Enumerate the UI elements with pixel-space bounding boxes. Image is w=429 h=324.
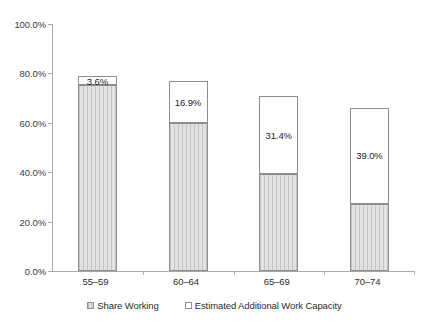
bar-value-label: 39.0%	[351, 151, 388, 161]
chart-legend: Share Working Estimated Additional Work …	[0, 300, 429, 311]
striped-gray-swatch-icon	[87, 302, 94, 309]
x-axis-label-70-74: 70–74	[330, 276, 405, 287]
y-tick-mark-60	[48, 123, 52, 124]
y-tick-label-20: 20.0%	[20, 216, 46, 227]
bar-group-70-74[interactable]: 39.0%	[350, 24, 389, 271]
legend-item-share-working[interactable]: Share Working	[87, 300, 158, 311]
x-tick-separator-3	[324, 271, 325, 275]
bar-segment-work-capacity[interactable]: 16.9%	[169, 81, 208, 123]
bar-segment-share-working[interactable]	[350, 204, 389, 271]
y-tick-mark-80	[48, 73, 52, 74]
bar-segment-share-working[interactable]	[169, 123, 208, 271]
y-tick-label-80: 80.0%	[20, 68, 46, 79]
legend-item-work-capacity[interactable]: Estimated Additional Work Capacity	[185, 300, 342, 311]
plot-area: 0.0% 20.0% 40.0% 60.0% 80.0% 100.0%	[52, 24, 415, 271]
bar-segment-share-working[interactable]	[259, 174, 298, 271]
y-tick-label-40: 40.0%	[20, 167, 46, 178]
stacked-bar-chart: 0.0% 20.0% 40.0% 60.0% 80.0% 100.0%	[0, 0, 429, 324]
x-axis-label-55-59: 55–59	[58, 276, 133, 287]
white-swatch-icon	[185, 302, 192, 309]
legend-label-share-working: Share Working	[97, 300, 158, 311]
bar-segment-share-working[interactable]	[78, 85, 117, 271]
y-tick-mark-20	[48, 222, 52, 223]
bar-segment-work-capacity[interactable]: 39.0%	[350, 108, 389, 204]
y-tick-mark-0	[48, 271, 52, 272]
bar-value-label: 3.6%	[79, 77, 116, 87]
bar-segment-work-capacity[interactable]: 31.4%	[259, 96, 298, 174]
x-tick-separator-1	[143, 271, 144, 275]
bar-group-65-69[interactable]: 31.4%	[259, 24, 298, 271]
y-tick-label-100: 100.0%	[14, 19, 46, 30]
bar-value-label: 31.4%	[260, 131, 297, 141]
bar-group-55-59[interactable]: 3.6%	[78, 24, 117, 271]
x-tick-separator-4	[414, 271, 415, 275]
x-axis-label-60-64: 60–64	[149, 276, 224, 287]
legend-label-work-capacity: Estimated Additional Work Capacity	[195, 300, 342, 311]
x-tick-separator-2	[234, 271, 235, 275]
y-tick-label-60: 60.0%	[20, 117, 46, 128]
bar-value-label: 16.9%	[170, 98, 207, 108]
bar-segment-work-capacity[interactable]: 3.6%	[78, 76, 117, 85]
y-tick-label-0: 0.0%	[25, 266, 46, 277]
y-axis-line	[52, 24, 53, 271]
bar-group-60-64[interactable]: 16.9%	[169, 24, 208, 271]
y-tick-mark-100	[48, 24, 52, 25]
x-axis-label-65-69: 65–69	[239, 276, 314, 287]
y-tick-mark-40	[48, 172, 52, 173]
